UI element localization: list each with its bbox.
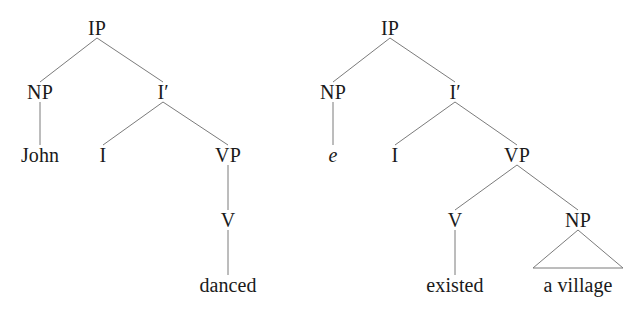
tree-node-np: NP: [27, 82, 53, 102]
tree-node-np: NP: [565, 210, 591, 230]
tree-branch: [395, 102, 455, 145]
tree-node-i: I: [392, 145, 399, 165]
tree-node-ip: IP: [381, 18, 399, 38]
tree-node-np: NP: [320, 82, 346, 102]
tree-branch: [455, 102, 517, 145]
tree-branch-lines: [0, 0, 632, 310]
syntax-tree-figure: IPNPI′JohnIVPVdancedIPNPI′eIVPVNPexisted…: [0, 0, 632, 310]
tree-node-i: I: [100, 145, 107, 165]
tree-branch: [390, 38, 455, 82]
tree-terminal-danced: danced: [199, 275, 256, 295]
tree-empty-category-e: e: [329, 145, 338, 165]
tree-branch: [517, 165, 578, 210]
tree-branch: [333, 38, 390, 82]
tree-node-v: V: [221, 210, 236, 230]
tree-branch: [455, 165, 517, 210]
tree-terminal-a-village: a village: [543, 275, 612, 295]
tree-terminal-john: John: [21, 145, 59, 165]
tree-node-vp: VP: [215, 145, 241, 165]
tree-branch: [103, 102, 163, 145]
tree-node-v: V: [448, 210, 463, 230]
tree-node-ip: IP: [88, 18, 106, 38]
tree-terminal-existed: existed: [426, 275, 483, 295]
tree-branch: [97, 38, 163, 82]
tree-node-i: I′: [157, 82, 168, 102]
tree-node-i: I′: [449, 82, 460, 102]
constituent-triangle: [533, 230, 623, 268]
tree-node-vp: VP: [504, 145, 530, 165]
tree-branch: [40, 38, 97, 82]
tree-branch: [163, 102, 228, 145]
